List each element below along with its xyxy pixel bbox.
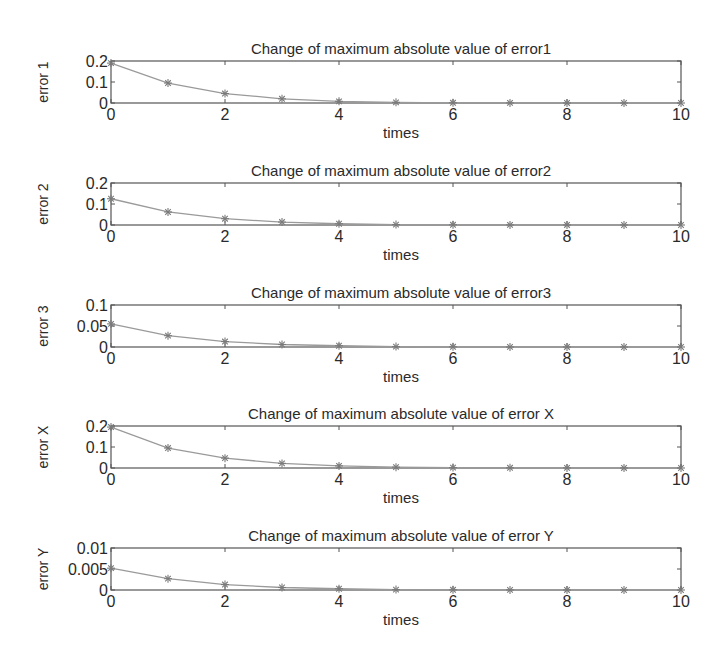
star-marker-icon — [221, 90, 229, 98]
x-tick-label: 6 — [449, 471, 458, 488]
star-marker-icon — [107, 59, 115, 67]
star-marker-icon — [620, 586, 628, 594]
y-axis-label: error 3 — [35, 305, 51, 346]
star-marker-icon — [164, 208, 172, 216]
star-marker-icon — [677, 343, 685, 351]
x-tick-label: 4 — [335, 350, 344, 367]
y-tick-label: 0 — [99, 582, 108, 599]
star-marker-icon — [392, 221, 400, 229]
subplot-title: Change of maximum absolute value of erro… — [251, 40, 551, 57]
star-marker-icon — [677, 586, 685, 594]
star-marker-icon — [563, 586, 571, 594]
axes-frame — [111, 305, 681, 347]
x-tick-label: 2 — [221, 106, 230, 123]
star-marker-icon — [164, 444, 172, 452]
axes-frame — [111, 61, 681, 103]
y-tick-label: 0.005 — [68, 561, 108, 578]
subplots-canvas: Change of maximum absolute value of erro… — [0, 0, 727, 664]
star-marker-icon — [449, 343, 457, 351]
star-marker-icon — [563, 464, 571, 472]
star-marker-icon — [392, 98, 400, 106]
star-marker-icon — [392, 586, 400, 594]
x-tick-label: 10 — [672, 471, 690, 488]
subplot-title: Change of maximum absolute value of erro… — [248, 527, 554, 544]
x-tick-label: 4 — [335, 471, 344, 488]
star-marker-icon — [221, 454, 229, 462]
x-tick-label: 10 — [672, 106, 690, 123]
star-marker-icon — [107, 423, 115, 431]
star-marker-icon — [392, 463, 400, 471]
x-tick-label: 10 — [672, 350, 690, 367]
y-tick-label: 0.2 — [86, 418, 108, 435]
x-tick-label: 8 — [563, 593, 572, 610]
x-tick-label: 8 — [563, 350, 572, 367]
y-axis-label: error X — [35, 425, 51, 468]
x-tick-label: 2 — [221, 471, 230, 488]
subplot-title: Change of maximum absolute value of erro… — [251, 284, 551, 301]
y-tick-label: 0.2 — [86, 175, 108, 192]
x-tick-label: 10 — [672, 593, 690, 610]
subplot-3: Change of maximum absolute value of erro… — [35, 284, 690, 385]
star-marker-icon — [392, 343, 400, 351]
star-marker-icon — [335, 97, 343, 105]
data-line — [111, 63, 681, 103]
star-marker-icon — [221, 581, 229, 589]
x-tick-label: 8 — [563, 106, 572, 123]
star-marker-icon — [278, 459, 286, 467]
x-tick-label: 2 — [221, 593, 230, 610]
y-tick-label: 0 — [99, 95, 108, 112]
x-axis-label: times — [383, 368, 419, 385]
y-tick-label: 0.2 — [86, 53, 108, 70]
x-tick-label: 6 — [449, 106, 458, 123]
star-marker-icon — [335, 220, 343, 228]
x-axis-label: times — [383, 246, 419, 263]
y-tick-label: 0 — [99, 217, 108, 234]
x-tick-label: 10 — [672, 228, 690, 245]
y-tick-label: 0.1 — [86, 439, 108, 456]
axes-frame — [111, 426, 681, 468]
y-tick-label: 0.05 — [77, 318, 108, 335]
x-tick-label: 8 — [563, 471, 572, 488]
y-tick-label: 0.01 — [77, 540, 108, 557]
x-tick-label: 2 — [221, 228, 230, 245]
star-marker-icon — [164, 79, 172, 87]
y-axis-label: error 2 — [35, 183, 51, 224]
axes-frame — [111, 548, 681, 590]
x-axis-label: times — [383, 124, 419, 141]
star-marker-icon — [335, 462, 343, 470]
star-marker-icon — [563, 343, 571, 351]
y-tick-label: 0.1 — [86, 196, 108, 213]
star-marker-icon — [563, 221, 571, 229]
star-marker-icon — [677, 464, 685, 472]
star-marker-icon — [335, 585, 343, 593]
x-tick-label: 6 — [449, 350, 458, 367]
star-marker-icon — [506, 464, 514, 472]
x-tick-label: 8 — [563, 228, 572, 245]
star-marker-icon — [278, 95, 286, 103]
star-marker-icon — [221, 338, 229, 346]
x-tick-label: 4 — [335, 593, 344, 610]
star-marker-icon — [620, 221, 628, 229]
x-axis-label: times — [383, 489, 419, 506]
y-axis-label: error 1 — [35, 61, 51, 102]
star-marker-icon — [506, 99, 514, 107]
y-tick-label: 0.1 — [86, 297, 108, 314]
star-marker-icon — [677, 221, 685, 229]
y-tick-label: 0 — [99, 460, 108, 477]
star-marker-icon — [677, 99, 685, 107]
subplot-title: Change of maximum absolute value of erro… — [248, 405, 554, 422]
x-axis-label: times — [383, 611, 419, 628]
star-marker-icon — [506, 343, 514, 351]
star-marker-icon — [107, 320, 115, 328]
star-marker-icon — [164, 575, 172, 583]
x-tick-label: 6 — [449, 228, 458, 245]
subplot-1: Change of maximum absolute value of erro… — [35, 40, 690, 141]
y-tick-label: 0.1 — [86, 74, 108, 91]
x-tick-label: 2 — [221, 350, 230, 367]
subplot-5: Change of maximum absolute value of erro… — [35, 527, 690, 628]
y-axis-label: error Y — [35, 547, 51, 590]
y-tick-label: 0 — [99, 339, 108, 356]
star-marker-icon — [278, 583, 286, 591]
star-marker-icon — [449, 464, 457, 472]
figure: Change of maximum absolute value of erro… — [0, 0, 727, 664]
